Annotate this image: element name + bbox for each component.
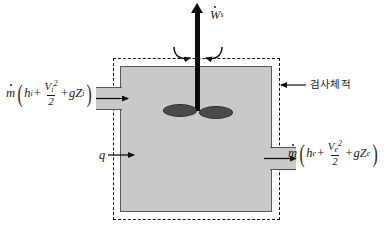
- outlet-energy-expression: m ( he + Ve2 2 + gZe ): [288, 140, 380, 167]
- inlet-kinetic-numerator: Vi2: [43, 80, 58, 95]
- inlet-plus-1: +: [34, 87, 41, 100]
- inlet-pipe: [96, 87, 122, 110]
- outlet-velocity-exponent: 2: [338, 139, 342, 148]
- shaft-work-subscript: s: [220, 11, 223, 19]
- outlet-kinetic-numerator: Ve2: [327, 140, 343, 155]
- inlet-kinetic-term: Vi2 2: [43, 80, 58, 107]
- outlet-plus-2: +: [346, 147, 353, 160]
- impeller-blade-left: [163, 104, 197, 117]
- outlet-enthalpy-subscript: e: [313, 150, 317, 158]
- outlet-close-paren: ): [372, 146, 377, 162]
- inlet-open-paren: (: [17, 86, 22, 102]
- stirrer-shaft: [195, 12, 200, 111]
- inlet-elevation-symbol: Z: [75, 87, 82, 100]
- inlet-velocity-exponent: 2: [53, 79, 57, 88]
- outlet-elevation-symbol: Z: [360, 147, 367, 160]
- shaft-work-symbol: W: [210, 9, 220, 22]
- control-volume-label: 검사체적: [310, 79, 351, 90]
- shaft-work-label: Ws: [210, 9, 224, 22]
- inlet-close-paren: ): [86, 86, 91, 102]
- outlet-kinetic-term: Ve2 2: [327, 140, 343, 167]
- control-volume-diagram: Ws q 검사체적 m ( hi + Vi2 2 + gZi ) m ( he …: [0, 0, 387, 236]
- inlet-plus-2: +: [61, 87, 68, 100]
- inlet-elevation-subscript: i: [82, 90, 84, 98]
- inlet-kinetic-denominator: 2: [47, 95, 55, 108]
- outlet-mass-flow-symbol: m: [288, 147, 297, 160]
- heat-label: q: [99, 149, 105, 162]
- outlet-open-paren: (: [299, 146, 304, 162]
- inlet-energy-expression: m ( hi + Vi2 2 + gZi ): [6, 80, 94, 107]
- outlet-kinetic-denominator: 2: [331, 155, 339, 168]
- outlet-plus-1: +: [317, 147, 324, 160]
- impeller-blade-right: [199, 106, 233, 119]
- heat-symbol: q: [99, 149, 105, 162]
- outlet-elevation-subscript: e: [367, 150, 371, 158]
- inlet-enthalpy-subscript: i: [31, 90, 33, 98]
- inlet-mass-flow-symbol: m: [6, 87, 15, 100]
